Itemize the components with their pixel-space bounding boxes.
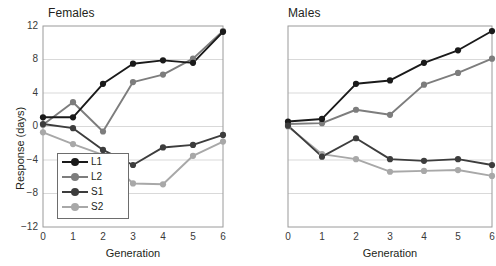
legend-label-l1: L1	[91, 156, 102, 167]
legend-item-l2: L2	[58, 169, 128, 184]
legend-marker-l2-icon	[62, 171, 88, 182]
legend-label-s1: S1	[91, 186, 103, 197]
figure-root: Females Response (days) 12 8 4 0 −4 −8 −…	[0, 0, 496, 266]
legend-marker-s2-icon	[62, 201, 88, 212]
legend-item-l1: L1	[58, 154, 128, 169]
legend-label-s2: S2	[91, 201, 103, 212]
legend-item-s1: S1	[58, 184, 128, 199]
legend-marker-l1-icon	[62, 156, 88, 167]
legend-marker-s1-icon	[62, 186, 88, 197]
panel-females: Females Response (days) 12 8 4 0 −4 −8 −…	[0, 0, 250, 266]
legend-item-s2: S2	[58, 199, 128, 214]
plot-area-males	[246, 0, 496, 266]
plot-area-females	[0, 0, 250, 266]
legend: L1 L2 S1 S2	[57, 153, 129, 219]
panel-males: Males 0 1 2 3 4 5 6 Generation	[246, 0, 496, 266]
legend-label-l2: L2	[91, 171, 102, 182]
